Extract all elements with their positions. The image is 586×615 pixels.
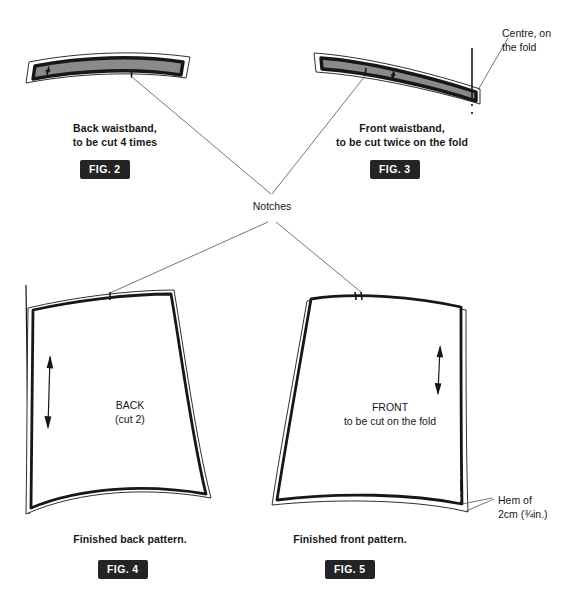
- front-waistband-caption: Front waistband, to be cut twice on the …: [312, 122, 492, 149]
- front-pattern-caption: Finished front pattern.: [255, 533, 445, 547]
- notches-leader-to-front: [276, 222, 361, 292]
- front-pattern-notch-icon: [355, 292, 356, 300]
- pattern-diagram-sheet: Centre, on the fold Back waistband, to b…: [0, 0, 586, 615]
- fig-tag-4: FIG. 4: [98, 560, 148, 579]
- pattern-artwork: [0, 0, 586, 615]
- notches-leader-to-back: [110, 222, 268, 293]
- back-waistband-caption: Back waistband, to be cut 4 times: [30, 122, 200, 149]
- fig-tag-3: FIG. 3: [370, 160, 420, 179]
- front-waistband-piece: [321, 58, 476, 101]
- centre-fold-annotation: Centre, on the fold: [502, 27, 586, 54]
- back-waistband-piece: [33, 58, 183, 79]
- front-piece-label: FRONT to be cut on the fold: [310, 400, 470, 428]
- notches-leaders: [110, 222, 361, 293]
- back-pattern-caption: Finished back pattern.: [40, 533, 220, 547]
- fig-tag-5: FIG. 5: [325, 560, 375, 579]
- front-pattern-notch-icon-2: [361, 292, 362, 300]
- hem-leader-2: [466, 499, 494, 511]
- hem-annotation: Hem of 2cm (¾in.): [498, 494, 584, 521]
- notches-label: Notches: [224, 200, 320, 214]
- front-waistband-notch-icon: [365, 68, 366, 76]
- fig-tag-2: FIG. 2: [80, 160, 130, 179]
- back-piece-label: BACK (cut 2): [70, 398, 190, 426]
